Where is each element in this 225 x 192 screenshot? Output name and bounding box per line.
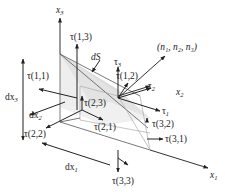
tau-1-2-label: τ(1,2)	[116, 71, 138, 82]
x2-label: x2	[175, 87, 184, 98]
tau-2-label: τ2	[148, 81, 156, 92]
stress-tetrahedron-diagram: x3 x1 x2 (n₁, n₂, n₃) dS dx3 dx2 dx1 τ3 …	[0, 0, 225, 192]
tau-2-3-label: τ(2,3)	[84, 98, 106, 109]
tau-1-3-label: τ(1,3)	[70, 32, 92, 43]
tau-3-label: τ3	[114, 57, 122, 68]
tau-3-1-label: τ(3,1)	[165, 134, 187, 145]
tau-3-2-label: τ(3,2)	[152, 119, 174, 130]
x3-label: x3	[55, 5, 64, 16]
normal-label: (n₁, n₂, n₃)	[157, 42, 197, 53]
x1-axis	[150, 150, 208, 168]
x1-label: x1	[209, 170, 217, 181]
dx3-label: dx3	[5, 92, 19, 103]
tau-3-3-label: τ(3,3)	[112, 176, 134, 187]
tau-3-3b-arrow	[118, 158, 128, 165]
ds-label: dS	[91, 52, 101, 62]
dx2-label: dx2	[29, 110, 43, 121]
dx1-label: dx1	[65, 162, 78, 173]
tau-1-1-label: τ(1,1)	[27, 71, 49, 82]
tau-2-1-label: τ(2,1)	[94, 122, 116, 133]
tau-1-label: τ1	[162, 106, 169, 117]
dx1-arrow	[42, 143, 110, 165]
tau-2-2-label: τ(2,2)	[24, 129, 46, 140]
